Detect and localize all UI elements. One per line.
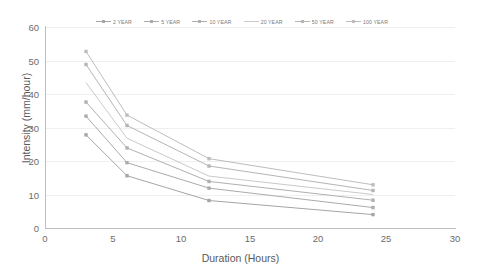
data-point-marker	[371, 189, 374, 192]
data-point-marker	[84, 100, 87, 103]
data-point-marker	[207, 164, 210, 167]
data-point-marker	[125, 174, 128, 177]
data-point-marker	[371, 206, 374, 209]
series-line	[86, 51, 373, 184]
data-point-marker	[125, 146, 128, 149]
data-point-marker	[125, 161, 128, 164]
data-point-marker	[207, 157, 210, 160]
series-line	[86, 102, 373, 200]
data-point-marker	[207, 180, 210, 183]
series-100-year	[84, 50, 374, 187]
series-layer	[0, 0, 481, 276]
series-line	[86, 65, 373, 191]
data-point-marker	[84, 63, 87, 66]
data-point-marker	[207, 186, 210, 189]
data-point-marker	[371, 183, 374, 186]
idf-curve-chart: 60 50 40 30 20 10 0 0 5 10 15 20 25 30 D…	[0, 0, 481, 276]
data-point-marker	[371, 199, 374, 202]
series-2-year	[84, 133, 374, 216]
data-point-marker	[84, 50, 87, 53]
series-50-year	[84, 63, 374, 192]
data-point-marker	[371, 213, 374, 216]
data-point-marker	[125, 113, 128, 116]
data-point-marker	[84, 114, 87, 117]
data-point-marker	[125, 124, 128, 127]
data-point-marker	[207, 199, 210, 202]
data-point-marker	[84, 133, 87, 136]
